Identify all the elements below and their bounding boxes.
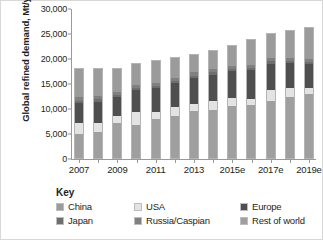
x-axis-tick-label: 2007 [69,164,89,175]
bar-segment-china [305,28,313,60]
bar-segment-rest-of-world [247,105,255,158]
bar-segment-usa [286,88,294,97]
bar-segment-rest-of-world [132,125,140,158]
legend-label: Rest of world [252,215,305,226]
bar-segment-usa [171,107,179,116]
bar-segment-rest-of-world [305,94,313,158]
x-axis-tick [290,159,291,163]
bar-segment-rest-of-world [94,132,102,158]
bar-segment-usa [75,123,83,133]
x-axis-labels: 20072009201120132015e2017e2019e [72,164,316,178]
stacked-bar[interactable] [304,27,314,160]
bar-segment-china [228,46,236,65]
legend-item-russia-caspian[interactable]: Russia/Caspian [134,215,240,226]
bar-segment-china [152,61,160,83]
bar-slot [246,9,256,159]
plot-area [72,9,316,159]
stacked-bar[interactable] [93,68,103,159]
legend-label: USA [146,201,165,212]
bar-segment-rest-of-world [190,111,198,158]
bar-segment-china [171,58,179,78]
y-axis-tick-label: 30,000 [41,4,67,14]
bar-segment-rest-of-world [228,106,236,158]
stacked-bar[interactable] [131,63,141,160]
bar-segment-china [286,31,294,59]
bar-segment-europe [228,71,236,98]
bar-slot [266,9,276,159]
legend-item-rest-of-world[interactable]: Rest of world [240,215,318,226]
bar-segment-usa [305,88,313,95]
stacked-bar[interactable] [74,68,84,159]
legend-label: Russia/Caspian [146,215,210,226]
bar-segment-china [132,64,140,86]
legend-item-china[interactable]: China [56,201,134,212]
bar-segment-china [267,34,275,59]
stacked-bar[interactable] [227,45,237,159]
legend-swatch-icon [240,217,248,225]
bar-segment-china [247,40,255,65]
legend-swatch-icon [56,217,64,225]
bar-slot [170,9,180,159]
stacked-bar[interactable] [112,68,122,159]
legend-items: ChinaUSAEuropeJapanRussia/CaspianRest of… [56,201,318,226]
bar-slot [131,9,141,159]
bar-segment-rest-of-world [267,101,275,158]
chart-figure: Global refined demand, Mt/year 05,00010,… [0,0,323,240]
x-axis-tick [194,159,195,163]
legend: Key ChinaUSAEuropeJapanRussia/CaspianRes… [56,187,318,226]
bar-slot [151,9,161,159]
legend-swatch-icon [134,217,142,225]
x-axis-tick [309,159,310,163]
bar-segment-usa [209,101,217,110]
bar-segment-europe [171,83,179,107]
x-axis-tick [137,159,138,163]
stacked-bar[interactable] [246,39,256,159]
bar-segment-europe [267,64,275,91]
legend-label: China [68,201,92,212]
bar-segment-europe [113,97,121,116]
plot-wrapper: 05,00010,00015,00020,00025,00030,000 200… [37,9,318,167]
x-axis-tick [252,159,253,163]
stacked-bar[interactable] [189,54,199,160]
legend-heading: Key [56,187,318,198]
bar-slot [74,9,84,159]
bar-segment-rest-of-world [113,123,121,158]
bar-segment-usa [94,123,102,131]
bar-segment-rest-of-world [209,110,217,158]
bar-segment-europe [75,103,83,124]
bar-segment-usa [267,90,275,101]
stacked-bar[interactable] [285,30,295,159]
bar-segment-usa [152,112,160,119]
bar-segment-europe [132,90,140,112]
legend-swatch-icon [240,203,248,211]
stacked-bar[interactable] [208,50,218,159]
bar-segment-usa [228,98,236,106]
x-axis-tick-label: 2017e [258,164,283,175]
x-axis-tick-label: 2009 [107,164,127,175]
bar-slot [285,9,295,159]
bar-slot [227,9,237,159]
stacked-bar[interactable] [151,60,161,159]
bar-segment-china [75,69,83,97]
legend-item-europe[interactable]: Europe [240,201,318,212]
bar-segment-europe [247,70,255,99]
bar-segment-rest-of-world [286,97,294,158]
y-axis-title: Global refined demand, Mt/year [20,0,31,123]
x-axis-ticks [72,159,316,163]
bar-segment-china [94,69,102,96]
legend-swatch-icon [56,203,64,211]
bar-segment-usa [113,116,121,123]
y-axis-labels: 05,00010,00015,00020,00025,00030,000 [37,9,71,159]
legend-item-japan[interactable]: Japan [56,215,134,226]
legend-item-usa[interactable]: USA [134,201,240,212]
bar-segment-rest-of-world [171,116,179,158]
stacked-bar[interactable] [266,33,276,159]
bar-segment-china [209,51,217,69]
bar-segment-europe [152,88,160,111]
y-axis-tick-label: 15,000 [41,79,67,89]
bar-segment-china [113,69,121,92]
x-axis-tick [271,159,272,163]
bar-segment-usa [132,112,140,124]
stacked-bar[interactable] [170,57,180,159]
x-axis-tick [156,159,157,163]
